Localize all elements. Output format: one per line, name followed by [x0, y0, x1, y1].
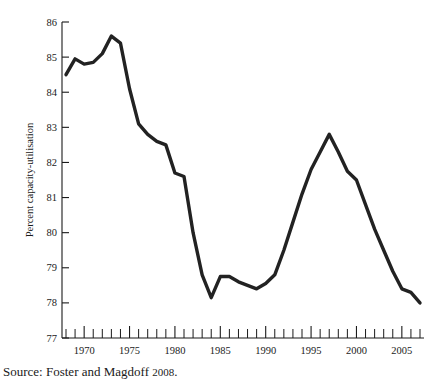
source-note-prefix: Source: Foster and Magdoff	[3, 364, 152, 379]
y-tick-label-85: 85	[47, 52, 58, 63]
x-tick-label-2005: 2005	[391, 345, 412, 356]
x-tick-label-1990: 1990	[255, 345, 276, 356]
y-tick-label-83: 83	[47, 122, 58, 133]
y-tick-label-84: 84	[47, 87, 58, 98]
y-axis: 77787980818283848586	[47, 17, 70, 344]
x-tick-label-1980: 1980	[164, 345, 185, 356]
source-note-suffix: .	[174, 364, 177, 379]
x-tick-label-1985: 1985	[210, 345, 231, 356]
line-chart: 77787980818283848586 1970197519801985199…	[0, 0, 429, 388]
source-note-year: 2008	[152, 366, 174, 378]
y-tick-label-81: 81	[47, 192, 58, 203]
y-tick-label-79: 79	[47, 262, 58, 273]
data-series	[66, 36, 420, 303]
x-tick-label-1970: 1970	[74, 345, 95, 356]
x-tick-label-1975: 1975	[119, 345, 140, 356]
y-tick-label-77: 77	[47, 333, 58, 344]
x-axis: 19701975198019851990199520002005	[62, 326, 424, 356]
source-note: Source: Foster and Magdoff 2008.	[3, 364, 177, 380]
y-axis-title-text: Percent capacity-utilisation	[24, 122, 35, 237]
y-tick-label-86: 86	[47, 17, 58, 28]
y-axis-title: Percent capacity-utilisation	[24, 122, 35, 237]
x-tick-label-2000: 2000	[346, 345, 367, 356]
x-tick-label-1995: 1995	[301, 345, 322, 356]
y-tick-label-82: 82	[47, 157, 58, 168]
y-tick-label-80: 80	[47, 227, 58, 238]
series-line-0	[66, 36, 420, 303]
capacity-utilisation-figure: 77787980818283848586 1970197519801985199…	[0, 0, 429, 388]
y-tick-label-78: 78	[47, 297, 58, 308]
